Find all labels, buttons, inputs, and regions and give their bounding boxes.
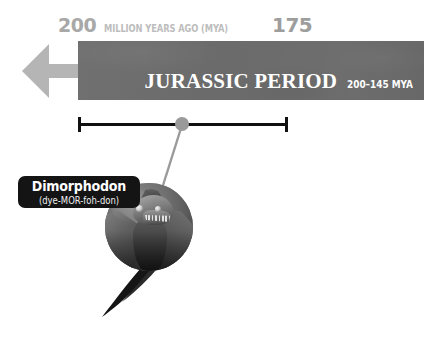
period-bar-jurassic: JURASSIC PERIOD 200–145 MYA xyxy=(78,41,424,100)
period-label-group: JURASSIC PERIOD 200–145 MYA xyxy=(145,71,420,92)
species-pronunciation: (dye-MOR-foh-don) xyxy=(27,195,130,206)
species-range-cap-end xyxy=(285,117,288,132)
range-marker-dot[interactable] xyxy=(175,117,189,131)
axis-tick-label-200: 200 MILLION YEARS AGO (MYA) xyxy=(58,16,245,35)
arrow-left-icon xyxy=(22,42,82,100)
period-range: 200–145 MYA xyxy=(347,79,413,90)
axis-tick-label-175: 175 xyxy=(272,15,312,35)
axis-unit-label: MILLION YEARS AGO (MYA) xyxy=(104,23,228,34)
period-name: JURASSIC PERIOD xyxy=(145,69,338,93)
species-name: Dimorphodon xyxy=(26,179,133,194)
axis-tick-value-200: 200 xyxy=(58,14,96,36)
species-name-callout[interactable]: Dimorphodon (dye-MOR-foh-don) xyxy=(18,176,140,208)
photo-vignette xyxy=(105,231,193,271)
axis-tick-value-175: 175 xyxy=(272,13,312,37)
creature-eye-right xyxy=(155,206,161,212)
species-range-cap-start xyxy=(78,117,81,132)
